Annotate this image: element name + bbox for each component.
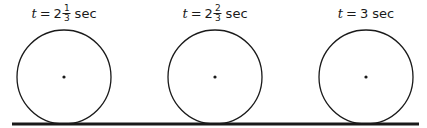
wheel-center-dot-1: [62, 75, 65, 78]
whole-number: 2: [205, 6, 213, 21]
whole-number: 2: [54, 6, 62, 21]
wheel-center-dot-3: [364, 75, 367, 78]
fraction-numerator: 2: [214, 4, 222, 14]
time-label-1: t = 2 1 3 sec: [31, 2, 96, 24]
whole-number: 3: [360, 6, 368, 21]
time-variable: t: [31, 6, 36, 21]
time-label-3: t = 3 sec: [338, 2, 394, 24]
time-unit: sec: [226, 6, 248, 21]
fraction-denominator: 3: [64, 14, 70, 23]
time-unit: sec: [372, 6, 394, 21]
wheel-center-dot-2: [213, 75, 216, 78]
time-label-2: t = 2 2 3 sec: [182, 2, 247, 24]
equals-sign: =: [191, 6, 202, 21]
fraction-numerator: 1: [63, 4, 71, 14]
time-variable: t: [182, 6, 187, 21]
equals-sign: =: [346, 6, 357, 21]
time-unit: sec: [75, 6, 97, 21]
fraction: 1 3: [63, 4, 71, 23]
fraction: 2 3: [214, 4, 222, 23]
time-variable: t: [338, 6, 343, 21]
fraction-denominator: 3: [215, 14, 221, 23]
equals-sign: =: [40, 6, 51, 21]
